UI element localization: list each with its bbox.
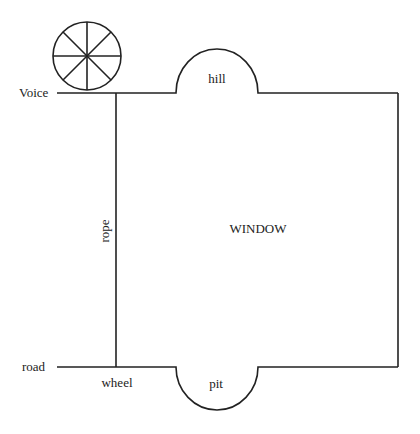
- label-window: WINDOW: [229, 221, 287, 236]
- label-rope: rope: [97, 219, 112, 242]
- diagram-canvas: Voice hill rope WINDOW road wheel pit: [0, 0, 420, 434]
- label-hill: hill: [208, 71, 226, 86]
- label-wheel: wheel: [101, 375, 132, 390]
- label-road: road: [22, 359, 46, 374]
- label-voice: Voice: [19, 85, 49, 100]
- wheel-icon: [53, 22, 121, 90]
- label-pit: pit: [209, 376, 223, 391]
